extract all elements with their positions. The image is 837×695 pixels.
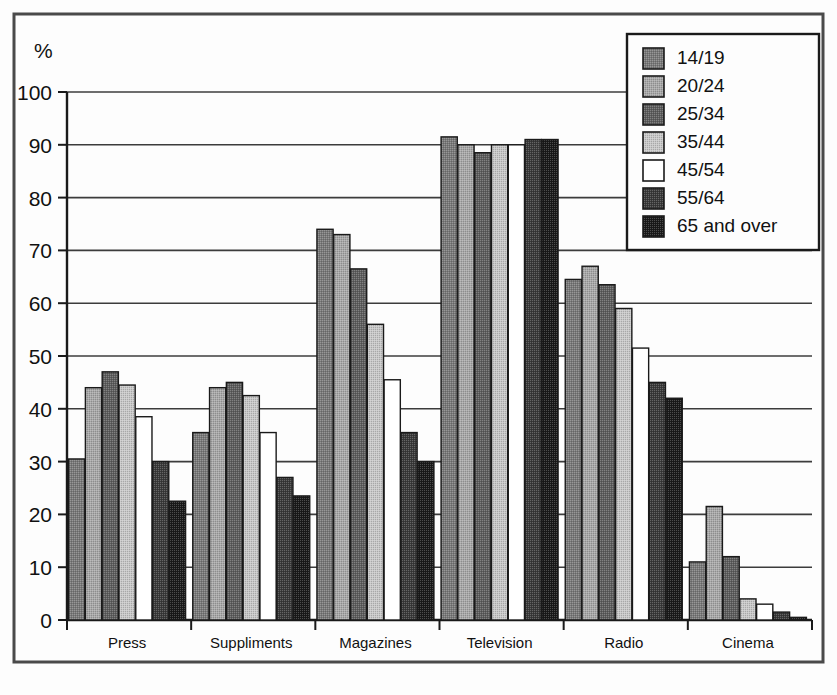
y-axis-tick-label: 10 [29, 556, 52, 579]
y-axis-tick-label: 40 [29, 398, 52, 421]
y-axis-tick-label: 0 [40, 609, 52, 632]
y-axis-tick-label: 60 [29, 292, 52, 315]
x-axis-category-label: Radio [604, 634, 643, 651]
bar [193, 433, 209, 620]
bar [418, 462, 434, 620]
bar [740, 599, 756, 620]
bar [599, 285, 615, 620]
bar [260, 433, 276, 620]
y-axis-tick-label: 50 [29, 345, 52, 368]
y-axis-tick-label: 80 [29, 187, 52, 210]
bar [790, 617, 806, 620]
bar [525, 140, 541, 620]
legend-swatch [643, 188, 664, 209]
legend-swatch [643, 160, 664, 181]
bar [334, 235, 350, 620]
bar-chart: %0102030405060708090100PressSupplimentsM… [0, 0, 837, 695]
bar [153, 462, 169, 620]
legend-label: 20/24 [677, 75, 725, 96]
x-axis-category-label: Magazines [339, 634, 412, 651]
bar [458, 145, 474, 620]
bar [565, 279, 581, 620]
bar [351, 269, 367, 620]
x-axis-category-label: Television [467, 634, 533, 651]
x-axis-category-label: Press [108, 634, 146, 651]
bar [367, 324, 383, 620]
legend-swatch [643, 48, 664, 69]
bar [773, 612, 789, 620]
bar [401, 433, 417, 620]
bar [441, 137, 457, 620]
legend-label: 25/34 [677, 103, 725, 124]
y-axis-tick-label: 100 [17, 81, 52, 104]
bar [119, 385, 135, 620]
legend-swatch [643, 216, 664, 237]
bar [226, 382, 242, 620]
x-axis-category-label: Suppliments [210, 634, 293, 651]
legend-label: 55/64 [677, 187, 725, 208]
bar [632, 348, 648, 620]
bar [542, 140, 558, 620]
bar [210, 388, 226, 620]
bar [616, 308, 632, 620]
bar [102, 372, 118, 620]
y-axis-tick-label: 20 [29, 503, 52, 526]
chart-container: %0102030405060708090100PressSupplimentsM… [0, 0, 837, 695]
bar [243, 396, 259, 620]
legend-label: 65 and over [677, 215, 778, 236]
bar [85, 388, 101, 620]
bar [136, 417, 152, 620]
bar [649, 382, 665, 620]
legend-swatch [643, 104, 664, 125]
bar [475, 153, 491, 620]
bar [706, 506, 722, 620]
bar [689, 562, 705, 620]
bar [666, 398, 682, 620]
bar [508, 145, 524, 620]
bar [277, 477, 293, 620]
x-axis-category-label: Cinema [722, 634, 774, 651]
y-axis-tick-label: 90 [29, 134, 52, 157]
y-axis-tick-label: 30 [29, 451, 52, 474]
legend-swatch [643, 132, 664, 153]
bar [69, 459, 85, 620]
bar [169, 501, 185, 620]
bar [491, 145, 507, 620]
bar [317, 229, 333, 620]
legend-label: 14/19 [677, 47, 725, 68]
y-axis-unit-label: % [34, 39, 53, 62]
bar [723, 557, 739, 620]
bar [384, 380, 400, 620]
legend-swatch [643, 76, 664, 97]
legend-label: 35/44 [677, 131, 725, 152]
bar [582, 266, 598, 620]
legend-label: 45/54 [677, 159, 725, 180]
bar [294, 496, 310, 620]
y-axis-tick-label: 70 [29, 239, 52, 262]
bar [757, 604, 773, 620]
